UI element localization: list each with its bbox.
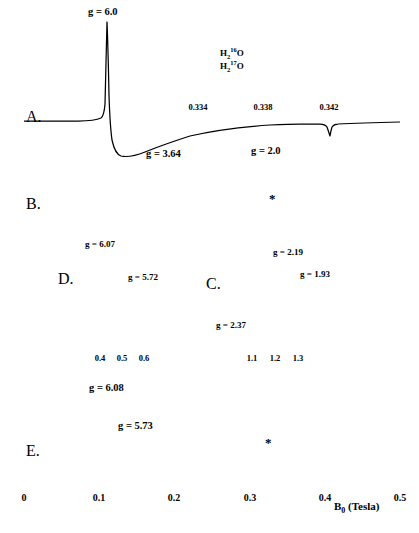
inset-a-tick-1: 0.338	[249, 102, 277, 112]
panel-e-asterisk-marker: *	[265, 440, 272, 446]
g-label-3.64: g = 3.64	[146, 148, 181, 159]
panel-d-tick-2: 0.6	[133, 353, 155, 363]
g-label-2.37: g = 2.37	[216, 320, 246, 330]
panel-d-tick-0: 0.4	[89, 353, 111, 363]
panel-c-tick-2: 1.3	[287, 353, 309, 363]
legend-h2-16o: H216O	[220, 46, 244, 60]
panel-d-tick-1: 0.5	[111, 353, 133, 363]
main-axis-title-post: (Tesla)	[345, 500, 379, 512]
panel-letter-a: A.	[26, 108, 42, 126]
panel-c-tick-1: 1.2	[264, 353, 286, 363]
legend-h2-17o-sub: 2	[227, 66, 230, 73]
panel-letter-b: B.	[26, 195, 41, 213]
g-label-1.93: g = 1.93	[300, 269, 330, 279]
panel-b-asterisk-marker: *	[269, 196, 276, 202]
main-axis-tick-2: 0.2	[161, 492, 187, 503]
main-axis-tick-1: 0.1	[86, 492, 112, 503]
epr-figure	[0, 0, 419, 533]
panel-letter-d: D.	[58, 270, 74, 288]
main-axis-tick-5: 0.5	[387, 492, 413, 503]
inset-a-tick-0: 0.334	[184, 102, 212, 112]
legend-h2-16o-pre: H	[220, 48, 227, 58]
g-label-5.72: g = 5.72	[128, 272, 158, 282]
g-label-5.73: g = 5.73	[118, 420, 153, 431]
panel-letter-c: C.	[206, 275, 221, 293]
main-axis-tick-0: 0	[14, 492, 34, 503]
g-label-6.0: g = 6.0	[88, 6, 118, 17]
panel-c-tick-0: 1.1	[241, 353, 263, 363]
g-label-2.0: g = 2.0	[251, 145, 281, 156]
panel-letter-e: E.	[26, 442, 40, 460]
main-axis-tick-3: 0.3	[237, 492, 263, 503]
legend-h2-17o-pre: H	[220, 61, 227, 71]
g-label-6.07: g = 6.07	[85, 239, 115, 249]
panel-a-spectrum	[24, 22, 400, 157]
g-label-2.19: g = 2.19	[273, 247, 303, 257]
inset-a-tick-2: 0.342	[315, 102, 343, 112]
legend-h2-16o-post: O	[237, 48, 244, 58]
legend-h2-17o-post: O	[237, 61, 244, 71]
g-label-6.08: g = 6.08	[89, 382, 124, 393]
main-axis-title: B0 (Tesla)	[334, 500, 379, 515]
legend-h2-17o: H217O	[220, 59, 244, 73]
